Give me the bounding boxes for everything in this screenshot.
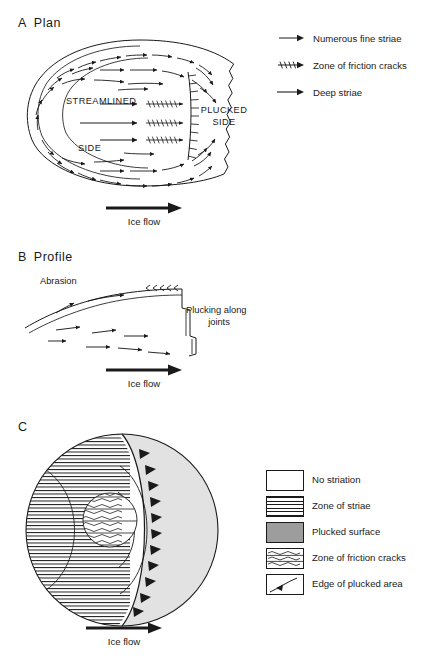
legend-c-label-no-striation: No striation [312, 474, 361, 485]
plucked-surface-swatch [266, 522, 304, 543]
legend-c-label-edge-of-plucked-area: Edge of plucked area [312, 578, 403, 589]
legend-c-row-plucked-surface: Plucked surface [266, 522, 416, 548]
legend-c-row-zone-of-friction-cracks: Zone of friction cracks [266, 548, 416, 574]
zone-of-friction-cracks-swatch [266, 548, 304, 569]
panel-c-legend: No striation Zone of striae Plucked surf… [266, 470, 416, 600]
friction-crack-pattern-icon [267, 549, 303, 568]
legend-c-label-plucked-surface: Plucked surface [312, 526, 380, 537]
legend-c-label-zone-of-friction-cracks: Zone of friction cracks [312, 552, 406, 563]
legend-c-label-zone-of-striae: Zone of striae [312, 500, 371, 511]
edge-of-plucked-area-swatch [266, 574, 304, 595]
no-striation-swatch [266, 470, 304, 491]
legend-c-row-no-striation: No striation [266, 470, 416, 496]
zone-of-striae-swatch [266, 496, 304, 517]
legend-c-row-edge-of-plucked-area: Edge of plucked area [266, 574, 416, 600]
plucked-edge-icon [267, 575, 303, 594]
legend-c-row-zone-of-striae: Zone of striae [266, 496, 416, 522]
